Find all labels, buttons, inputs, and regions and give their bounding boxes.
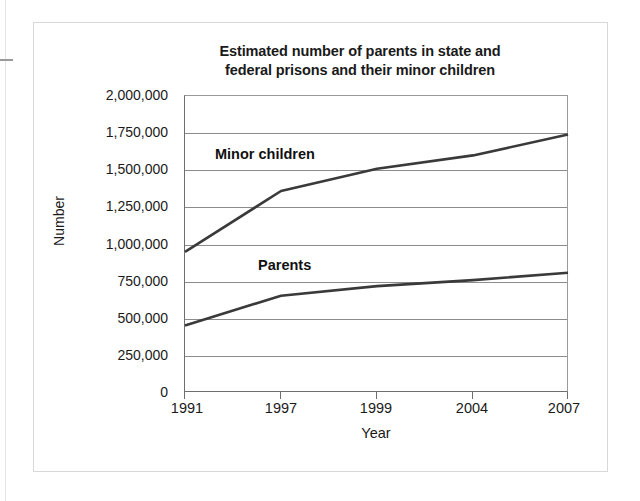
series-line-parents: [185, 273, 568, 326]
chart-title: Estimated number of parents in state and…: [150, 42, 570, 80]
x-axis-title: Year: [184, 425, 568, 441]
y-tick-label: 0: [58, 384, 168, 400]
scan-dash-artifact: [0, 59, 13, 61]
x-tick-label: 1991: [171, 400, 203, 416]
series-lines: [185, 96, 569, 393]
x-tick-label: 1999: [360, 400, 392, 416]
y-tick-label: 2,000,000: [58, 87, 168, 103]
y-tick-label: 1,250,000: [58, 198, 168, 214]
x-tick-label: 2007: [548, 400, 580, 416]
y-tick-label: 1,750,000: [58, 124, 168, 140]
y-tick-label: 500,000: [58, 310, 168, 326]
x-tick-mark: [280, 392, 281, 399]
y-tick-label: 250,000: [58, 347, 168, 363]
series-label-minor-children: Minor children: [215, 146, 315, 162]
plot-area: [184, 95, 568, 392]
x-tick-label: 2004: [456, 400, 488, 416]
y-axis-tick-labels: 2,000,000 1,750,000 1,500,000 1,250,000 …: [60, 95, 176, 392]
x-tick-mark: [184, 392, 185, 399]
chart-title-line-2: federal prisons and their minor children: [150, 61, 570, 80]
x-tick-mark: [376, 392, 377, 399]
chart-figure: Estimated number of parents in state and…: [0, 0, 640, 501]
y-axis-title: Number: [51, 156, 67, 286]
y-tick-label: 1,500,000: [58, 161, 168, 177]
series-label-parents: Parents: [258, 257, 311, 273]
y-tick-label: 750,000: [58, 273, 168, 289]
y-tick-label: 1,000,000: [58, 236, 168, 252]
chart-title-line-1: Estimated number of parents in state and: [150, 42, 570, 61]
x-tick-label: 1997: [265, 400, 297, 416]
x-tick-mark: [472, 392, 473, 399]
scan-edge-artifact: [5, 0, 6, 501]
x-tick-mark: [567, 392, 568, 399]
